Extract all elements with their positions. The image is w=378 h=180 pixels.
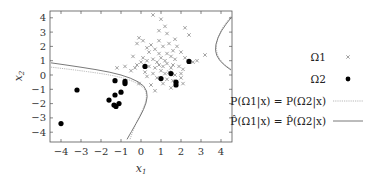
plot-frame — [50, 11, 232, 142]
omega1-cross-marker — [155, 60, 158, 63]
legend-label: Ω1 — [311, 51, 326, 63]
omega1-cross-marker — [153, 48, 156, 51]
omega1-cross-marker — [159, 69, 162, 72]
omega1-cross-marker — [159, 56, 162, 59]
omega1-cross-marker — [183, 26, 186, 29]
omega1-cross-marker — [191, 60, 194, 63]
omega1-cross-marker — [153, 89, 156, 92]
scatter-chart: −4−3−2−101234 −4−3−2−101234 x1 x2 Ω1Ω2P(… — [0, 0, 378, 180]
y-tick-label: 4 — [40, 12, 46, 23]
y-tick-label: −2 — [31, 98, 46, 109]
legend: Ω1Ω2P(Ω1|x) = P(Ω2|x)P̂(Ω1|x) = P̂(Ω2|x) — [230, 51, 363, 129]
omega1-cross-marker — [129, 69, 132, 72]
omega1-cross-marker — [171, 49, 174, 52]
omega1-cross-marker — [139, 60, 142, 63]
x-tick-label: −1 — [114, 146, 129, 157]
omega2-dot-marker — [142, 64, 147, 69]
estimated-boundary-curve — [215, 18, 231, 70]
x-axis-label: x1 — [136, 162, 147, 176]
omega2-dot-marker — [173, 82, 178, 87]
legend-label: P̂(Ω1|x) = P̂(Ω2|x) — [230, 115, 326, 129]
omega1-cross-marker — [181, 82, 184, 85]
omega1-cross-marker — [165, 78, 168, 81]
omega1-cross-marker — [137, 36, 140, 39]
data-points — [58, 13, 206, 126]
omega1-cross-marker — [159, 18, 162, 21]
omega1-cross-marker — [149, 83, 152, 86]
omega1-cross-marker — [145, 59, 148, 62]
omega1-cross-marker — [145, 75, 148, 78]
omega1-cross-marker — [179, 76, 182, 79]
legend-dot-icon — [346, 77, 351, 82]
omega1-cross-marker — [155, 76, 158, 79]
y-tick-label: 3 — [40, 27, 46, 38]
x-tick-label: −4 — [54, 146, 69, 157]
omega1-cross-marker — [161, 82, 164, 85]
x-axis-subscript: 1 — [142, 168, 146, 176]
omega1-cross-marker — [177, 65, 180, 68]
omega1-cross-marker — [195, 59, 198, 62]
omega1-cross-marker — [171, 63, 174, 66]
omega1-cross-marker — [143, 70, 146, 73]
omega1-cross-marker — [153, 66, 156, 69]
omega1-cross-marker — [157, 52, 160, 55]
omega1-cross-marker — [161, 65, 164, 68]
y-tick-label: −4 — [31, 127, 46, 138]
x-tick-label: 1 — [158, 146, 164, 157]
omega1-cross-marker — [151, 58, 154, 61]
x-tick-label: 3 — [198, 146, 204, 157]
omega1-cross-marker — [165, 32, 168, 35]
omega1-cross-marker — [173, 38, 176, 41]
omega1-cross-marker — [173, 58, 176, 61]
omega1-cross-marker — [179, 50, 182, 53]
omega1-cross-marker — [163, 25, 166, 28]
omega1-cross-marker — [169, 55, 172, 58]
omega1-cross-marker — [157, 29, 160, 32]
omega1-cross-marker — [151, 13, 154, 16]
omega1-cross-marker — [123, 65, 126, 68]
y-tick-label: 0 — [40, 70, 46, 81]
omega2-dot-marker — [74, 87, 79, 92]
omega2-dot-marker — [158, 76, 163, 81]
omega1-cross-marker — [175, 45, 178, 48]
omega1-cross-marker — [165, 62, 168, 65]
omega1-cross-marker — [141, 39, 144, 42]
estimated-boundary-curve — [51, 63, 147, 140]
omega1-cross-marker — [149, 43, 152, 46]
omega1-cross-marker — [157, 39, 160, 42]
x-tick-label: 0 — [138, 146, 144, 157]
omega2-dot-marker — [106, 97, 111, 102]
true-boundary-curve — [216, 16, 231, 69]
omega1-cross-marker — [163, 59, 166, 62]
omega2-dot-marker — [168, 71, 173, 76]
x-tick-label: −2 — [94, 146, 109, 157]
x-tick-label: 4 — [218, 146, 224, 157]
omega1-cross-marker — [147, 65, 150, 68]
decision-boundaries — [51, 16, 231, 139]
omega1-cross-marker — [151, 72, 154, 75]
y-axis-subscript: 2 — [18, 70, 26, 76]
legend-cross-icon — [346, 55, 349, 58]
x-tick-label: 2 — [178, 146, 184, 157]
omega1-cross-marker — [135, 63, 138, 66]
x-tick-label: −3 — [74, 146, 89, 157]
y-tick-label: −3 — [31, 112, 46, 123]
omega1-cross-marker — [167, 42, 170, 45]
omega2-dot-marker — [186, 59, 191, 64]
legend-label: P(Ω1|x) = P(Ω2|x) — [230, 95, 326, 109]
omega2-dot-marker — [122, 81, 127, 86]
omega2-dot-marker — [58, 121, 63, 126]
omega2-dot-marker — [112, 78, 117, 83]
omega1-cross-marker — [145, 46, 148, 49]
omega1-cross-marker — [203, 53, 206, 56]
legend-label: Ω2 — [311, 73, 326, 85]
omega1-cross-marker — [181, 68, 184, 71]
omega1-cross-marker — [179, 72, 182, 75]
omega1-cross-marker — [147, 50, 150, 53]
omega1-cross-marker — [165, 52, 168, 55]
omega1-cross-marker — [161, 45, 164, 48]
omega1-cross-marker — [131, 55, 134, 58]
omega1-cross-marker — [157, 63, 160, 66]
omega1-cross-marker — [141, 56, 144, 59]
y-tick-label: −1 — [31, 84, 46, 95]
